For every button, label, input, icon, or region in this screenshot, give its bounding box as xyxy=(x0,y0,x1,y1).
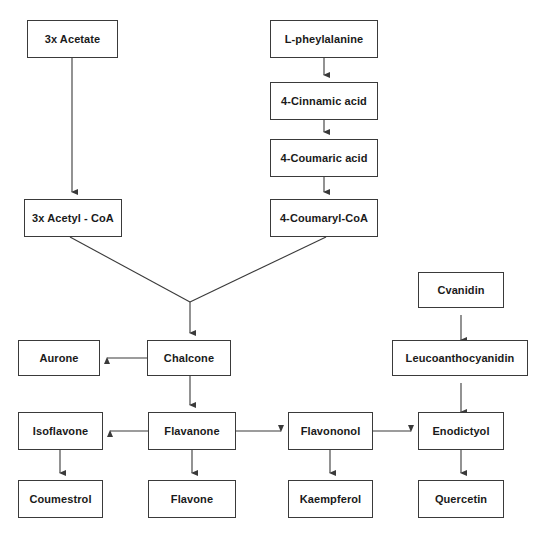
node-label: Chalcone xyxy=(161,352,217,364)
node-label: Leucoanthocyanidin xyxy=(403,352,518,364)
node-label: Quercetin xyxy=(432,493,490,505)
node-label: Flavononol xyxy=(298,425,364,437)
node-aurone[interactable]: Aurone xyxy=(18,340,100,376)
node-flavononol[interactable]: Flavononol xyxy=(288,412,373,450)
node-coumaryl-coa[interactable]: 4-Coumaryl-CoA xyxy=(270,199,378,237)
node-label: Isoflavone xyxy=(30,425,91,437)
pathway-diagram: 3x Acetate L-pheylalanine 4-Cinnamic aci… xyxy=(0,0,536,541)
node-chalcone[interactable]: Chalcone xyxy=(147,340,231,376)
node-kaempferol[interactable]: Kaempferol xyxy=(288,480,373,518)
node-label: Flavone xyxy=(168,493,216,505)
node-coumestrol[interactable]: Coumestrol xyxy=(18,480,103,518)
node-phenylalanine[interactable]: L-pheylalanine xyxy=(270,20,378,58)
node-cyanidin[interactable]: Cvanidin xyxy=(418,272,504,308)
node-label: Kaempferol xyxy=(297,493,365,505)
node-label: Enodictyol xyxy=(429,425,492,437)
node-coumaric-acid[interactable]: 4-Coumaric acid xyxy=(270,139,378,177)
node-label: Flavanone xyxy=(161,425,222,437)
node-label: 3x Acetate xyxy=(42,33,104,45)
node-quercetin[interactable]: Quercetin xyxy=(418,480,504,518)
node-flavone[interactable]: Flavone xyxy=(148,480,236,518)
node-enodictyol[interactable]: Enodictyol xyxy=(418,412,504,450)
node-leucoanthocyanidin[interactable]: Leucoanthocyanidin xyxy=(392,340,528,376)
edge-acetylcoa-to-junction xyxy=(70,237,190,302)
node-label: 4-Coumaric acid xyxy=(277,152,370,164)
node-label: 4-Coumaryl-CoA xyxy=(277,212,371,224)
edge-coumarylcoa-to-junction xyxy=(190,237,326,302)
edge-layer xyxy=(0,0,536,541)
node-label: Aurone xyxy=(36,352,81,364)
node-isoflavone[interactable]: Isoflavone xyxy=(18,412,103,450)
node-flavanone[interactable]: Flavanone xyxy=(148,412,236,450)
node-label: L-pheylalanine xyxy=(282,33,366,45)
node-label: 4-Cinnamic acid xyxy=(278,95,370,107)
node-cinnamic-acid[interactable]: 4-Cinnamic acid xyxy=(270,82,378,120)
node-acetate[interactable]: 3x Acetate xyxy=(27,20,118,58)
node-label: Coumestrol xyxy=(26,493,94,505)
node-label: Cvanidin xyxy=(434,284,487,296)
node-label: 3x Acetyl - CoA xyxy=(29,212,117,224)
node-acetyl-coa[interactable]: 3x Acetyl - CoA xyxy=(24,199,122,237)
